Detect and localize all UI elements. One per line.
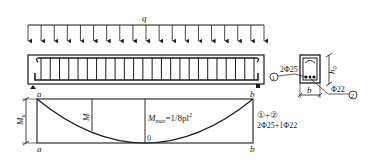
mu-label: Mu (15, 115, 26, 127)
mmax-formula: Mmax=1/8pl2 (147, 112, 192, 124)
right-support-icon (256, 84, 260, 88)
b-label: b (307, 85, 312, 95)
svg-text:M: M (81, 113, 91, 122)
bar1-spec: 2Φ25 (280, 65, 298, 74)
load-label: q (142, 13, 147, 23)
distributed-load: q (28, 13, 264, 41)
bar-2-middle (309, 76, 312, 79)
label-a-bottom: a (37, 144, 42, 154)
reinf-spec: 2Φ25+1Φ22 (257, 121, 297, 130)
label-b-bottom: b (250, 144, 255, 154)
bar2-mark: 2 (351, 92, 355, 100)
zero-label: 0 (147, 134, 151, 143)
cross-section: h0 b 1 2Φ25 Φ22 2 (270, 53, 357, 100)
reinf-marks: ①+② (257, 110, 278, 120)
bar1-leader (278, 74, 306, 77)
m-ordinate-label: M (81, 113, 91, 122)
label-a-top: a (37, 89, 42, 99)
moment-diagram: a a b b Mu M Mmax=1/8pl2 0 ①+② 2Φ25+1Φ22 (15, 89, 297, 154)
stirrups (41, 58, 254, 80)
beam-diagram: q a a b b Mu M Mmax=1/8pl2 (0, 0, 373, 164)
left-support-icon (30, 85, 36, 89)
bar1-mark: 1 (272, 74, 276, 82)
load-arrows (28, 25, 264, 41)
svg-text:Mu: Mu (15, 115, 26, 127)
bar2-spec: Φ22 (331, 85, 345, 94)
label-b-top: b (250, 89, 255, 99)
bar-1-right (312, 75, 315, 78)
beam-elevation (28, 55, 264, 89)
section-top-hook (305, 61, 315, 64)
top-reinforcement-bar (37, 58, 259, 62)
